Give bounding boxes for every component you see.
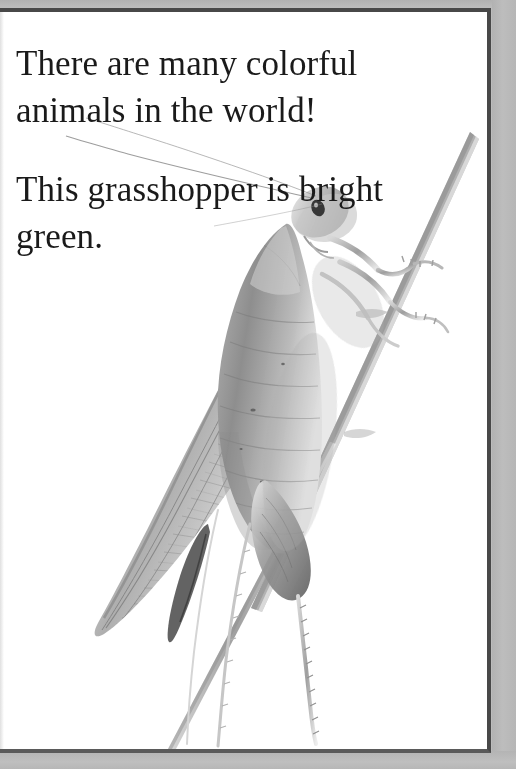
surround-top-band — [0, 0, 516, 8]
book-page-screenshot: There are many colorful animals in the w… — [0, 0, 516, 769]
surround-right-band — [492, 0, 516, 769]
paragraph-1: There are many colorful animals in the w… — [16, 40, 396, 134]
surround-bottom-band — [0, 751, 516, 769]
page-text-block: There are many colorful animals in the w… — [16, 40, 396, 260]
book-page: There are many colorful animals in the w… — [0, 8, 491, 753]
paragraph-2: This grasshopper is bright green. — [16, 166, 396, 260]
